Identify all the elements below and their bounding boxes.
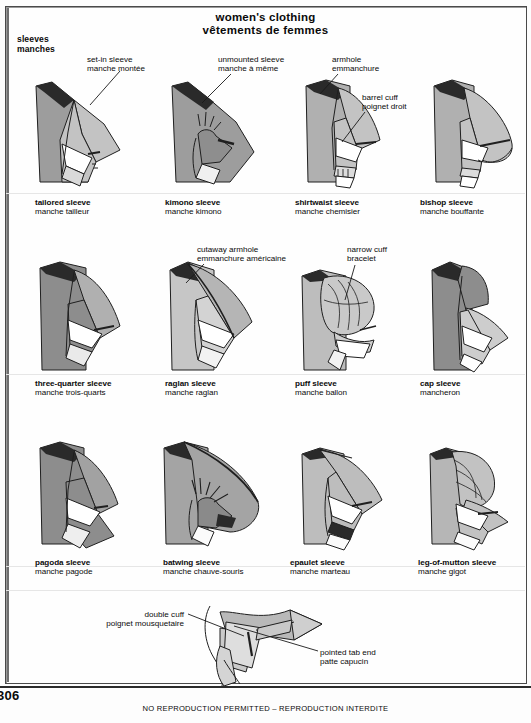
callout-narrow-cuff: narrow cuff bracelet bbox=[347, 245, 387, 264]
caption-batwing-sleeve-fr: manche chauve-souris bbox=[163, 567, 243, 576]
row-separator-1 bbox=[6, 193, 525, 194]
page-root: women's clothing vêtements de femmes sle… bbox=[0, 0, 531, 723]
row-separator-4 bbox=[6, 590, 525, 591]
figure-bishop-sleeve bbox=[422, 78, 531, 190]
figure-pagoda-sleeve bbox=[28, 440, 148, 552]
figure-raglan-sleeve bbox=[158, 260, 278, 374]
caption-puff-sleeve: puff sleeve manche ballon bbox=[295, 379, 347, 398]
caption-pagoda-sleeve-en: pagoda sleeve bbox=[35, 558, 92, 567]
caption-pagoda-sleeve-fr: manche pagode bbox=[35, 567, 92, 576]
caption-shirtwaist-sleeve-fr: manche chemisier bbox=[295, 207, 360, 216]
caption-epaulet-sleeve: epaulet sleeve manche marteau bbox=[290, 558, 350, 577]
caption-shirtwaist-sleeve: shirtwaist sleeve manche chemisier bbox=[295, 198, 360, 217]
caption-leg-of-mutton-sleeve-en: leg-of-mutton sleeve bbox=[418, 558, 496, 567]
section-label-fr: manches bbox=[17, 45, 55, 55]
callout-narrow-cuff-en: narrow cuff bbox=[347, 245, 387, 254]
leader-unmounted-sleeve bbox=[198, 72, 234, 106]
callout-barrel-cuff-en: barrel cuff bbox=[362, 93, 407, 102]
page-title: women's clothing vêtements de femmes bbox=[0, 11, 531, 36]
leader-set-in-sleeve bbox=[82, 69, 122, 109]
caption-three-quarter-sleeve: three-quarter sleeve manche trois-quarts bbox=[35, 379, 111, 398]
caption-kimono-sleeve-fr: manche kimono bbox=[165, 207, 222, 216]
figure-batwing-sleeve bbox=[152, 440, 282, 552]
callout-armhole-en: armhole bbox=[332, 55, 379, 64]
caption-tailored-sleeve: tailored sleeve manche tailleur bbox=[35, 198, 91, 217]
caption-shirtwaist-sleeve-en: shirtwaist sleeve bbox=[295, 198, 360, 207]
callout-cutaway-armhole-fr: emmanchure américaine bbox=[197, 254, 286, 263]
caption-three-quarter-sleeve-en: three-quarter sleeve bbox=[35, 379, 111, 388]
callout-pointed-tab-end-fr: patte capucin bbox=[320, 657, 376, 666]
callout-barrel-cuff-fr: poignet droit bbox=[362, 102, 407, 111]
callout-cutaway-armhole: cutaway armhole emmanchure américaine bbox=[197, 245, 286, 264]
caption-raglan-sleeve-en: raglan sleeve bbox=[165, 379, 218, 388]
caption-tailored-sleeve-en: tailored sleeve bbox=[35, 198, 91, 207]
figure-three-quarter-sleeve bbox=[28, 260, 148, 374]
caption-cap-sleeve-fr: mancheron bbox=[420, 388, 460, 397]
callout-unmounted-sleeve: unmounted sleeve manche à même bbox=[218, 55, 284, 74]
footer-rule bbox=[0, 686, 531, 688]
caption-raglan-sleeve-fr: manche raglan bbox=[165, 388, 218, 397]
leader-pointed-tab-end bbox=[232, 624, 320, 654]
copyright-notice: NO REPRODUCTION PERMITTED – REPRODUCTION… bbox=[0, 704, 531, 713]
caption-cap-sleeve-en: cap sleeve bbox=[420, 379, 460, 388]
figure-cap-sleeve bbox=[420, 260, 530, 374]
caption-bishop-sleeve-fr: manche bouffante bbox=[420, 207, 484, 216]
row-separator-2 bbox=[6, 374, 525, 375]
caption-puff-sleeve-en: puff sleeve bbox=[295, 379, 347, 388]
caption-leg-of-mutton-sleeve: leg-of-mutton sleeve manche gigot bbox=[418, 558, 496, 577]
leader-barrel-cuff bbox=[338, 110, 368, 144]
caption-leg-of-mutton-sleeve-fr: manche gigot bbox=[418, 567, 496, 576]
callout-set-in-sleeve-en: set-in sleeve bbox=[87, 55, 145, 64]
caption-batwing-sleeve-en: batwing sleeve bbox=[163, 558, 243, 567]
page-number: 306 bbox=[0, 688, 20, 703]
caption-kimono-sleeve-en: kimono sleeve bbox=[165, 198, 222, 207]
callout-double-cuff: double cuff poignet mousquetaire bbox=[74, 610, 184, 629]
leader-narrow-cuff bbox=[341, 263, 359, 303]
caption-puff-sleeve-fr: manche ballon bbox=[295, 388, 347, 397]
caption-epaulet-sleeve-fr: manche marteau bbox=[290, 567, 350, 576]
callout-double-cuff-fr: poignet mousquetaire bbox=[74, 619, 184, 628]
page-title-fr: vêtements de femmes bbox=[0, 24, 531, 37]
caption-batwing-sleeve: batwing sleeve manche chauve-souris bbox=[163, 558, 243, 577]
caption-three-quarter-sleeve-fr: manche trois-quarts bbox=[35, 388, 111, 397]
caption-raglan-sleeve: raglan sleeve manche raglan bbox=[165, 379, 218, 398]
figure-leg-of-mutton-sleeve bbox=[418, 440, 528, 552]
callout-double-cuff-en: double cuff bbox=[74, 610, 184, 619]
callout-unmounted-sleeve-en: unmounted sleeve bbox=[218, 55, 284, 64]
section-label: sleeves manches bbox=[17, 35, 55, 55]
caption-tailored-sleeve-fr: manche tailleur bbox=[35, 207, 91, 216]
leader-cutaway-armhole bbox=[183, 262, 207, 286]
callout-armhole: armhole emmanchure bbox=[332, 55, 379, 74]
figure-epaulet-sleeve bbox=[290, 440, 410, 552]
caption-bishop-sleeve-en: bishop sleeve bbox=[420, 198, 484, 207]
page-title-en: women's clothing bbox=[0, 11, 531, 24]
caption-pagoda-sleeve: pagoda sleeve manche pagode bbox=[35, 558, 92, 577]
caption-cap-sleeve: cap sleeve mancheron bbox=[420, 379, 460, 398]
callout-barrel-cuff: barrel cuff poignet droit bbox=[362, 93, 407, 112]
caption-bishop-sleeve: bishop sleeve manche bouffante bbox=[420, 198, 484, 217]
caption-epaulet-sleeve-en: epaulet sleeve bbox=[290, 558, 350, 567]
callout-cutaway-armhole-en: cutaway armhole bbox=[197, 245, 286, 254]
caption-kimono-sleeve: kimono sleeve manche kimono bbox=[165, 198, 222, 217]
callout-pointed-tab-end-en: pointed tab end bbox=[320, 648, 376, 657]
callout-pointed-tab-end: pointed tab end patte capucin bbox=[320, 648, 376, 667]
leader-armhole bbox=[316, 72, 342, 96]
